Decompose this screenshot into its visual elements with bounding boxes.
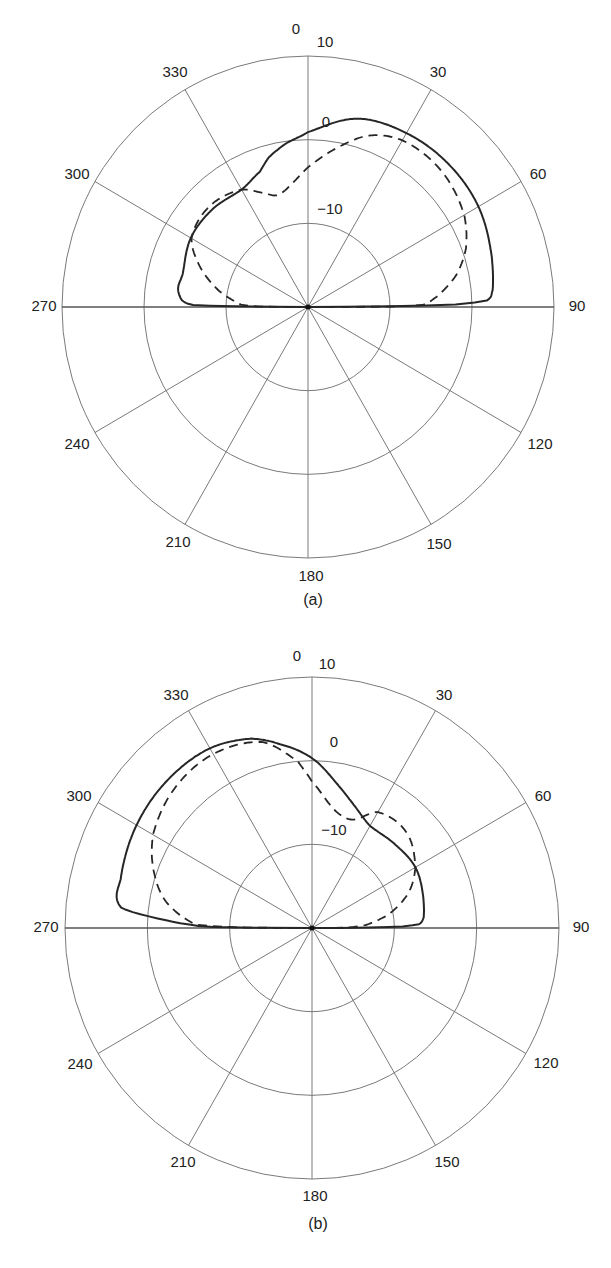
angle-label-120: 120 <box>527 435 552 452</box>
angle-label-210: 210 <box>165 533 190 550</box>
grid-spoke <box>308 307 521 433</box>
angle-label-300: 300 <box>64 165 89 182</box>
angle-label-270: 270 <box>31 297 56 314</box>
angle-label-330: 330 <box>163 686 188 703</box>
radial-label-10: 10 <box>317 33 334 50</box>
dashed-pattern-curve <box>192 135 467 307</box>
grid-spoke <box>312 928 436 1145</box>
grid-spoke <box>98 928 312 1054</box>
grid-spoke <box>312 928 526 1054</box>
angle-label-60: 60 <box>535 787 552 804</box>
radial-label-minus10: −10 <box>317 200 342 217</box>
angle-label-0: 0 <box>292 20 300 37</box>
radial-label-10: 10 <box>319 655 336 672</box>
angle-label-270: 270 <box>33 918 58 935</box>
chart-caption-b: (b) <box>308 1215 328 1232</box>
angle-label-90: 90 <box>573 918 590 935</box>
grid-spoke <box>185 90 308 307</box>
angle-label-0: 0 <box>293 647 301 664</box>
grid-spoke <box>95 307 308 433</box>
angle-label-210: 210 <box>170 1153 195 1170</box>
angle-label-150: 150 <box>434 1153 459 1170</box>
grid-spoke <box>98 803 312 929</box>
figure: 0 10 30 60 90 120 150 180 210 240 270 30… <box>0 0 611 1268</box>
angle-label-300: 300 <box>66 787 91 804</box>
angle-label-90: 90 <box>569 297 586 314</box>
angle-label-240: 240 <box>64 435 89 452</box>
solid-pattern-curve <box>117 739 424 928</box>
radial-label-minus10: −10 <box>321 821 346 838</box>
angle-label-30: 30 <box>430 63 447 80</box>
angle-label-180: 180 <box>298 567 323 584</box>
angle-label-180: 180 <box>302 1187 327 1204</box>
angle-label-150: 150 <box>426 535 451 552</box>
polar-chart-b: 0 10 30 60 90 120 150 180 210 240 270 30… <box>33 647 589 1232</box>
angle-label-120: 120 <box>533 1054 558 1071</box>
angle-label-60: 60 <box>530 165 547 182</box>
radial-label-0: 0 <box>322 113 330 130</box>
angle-label-30: 30 <box>436 686 453 703</box>
grid-spoke <box>189 928 313 1145</box>
center-point <box>306 305 311 310</box>
grid-spoke <box>185 307 308 524</box>
angle-label-240: 240 <box>67 1055 92 1072</box>
grid-spoke <box>308 307 431 524</box>
dashed-pattern-curve <box>152 742 416 928</box>
radial-label-0: 0 <box>330 733 338 750</box>
polar-chart-a: 0 10 30 60 90 120 150 180 210 240 270 30… <box>31 20 585 608</box>
chart-caption-a: (a) <box>303 591 323 608</box>
grid-spoke <box>95 182 308 308</box>
center-point <box>310 926 315 931</box>
angle-label-330: 330 <box>162 63 187 80</box>
